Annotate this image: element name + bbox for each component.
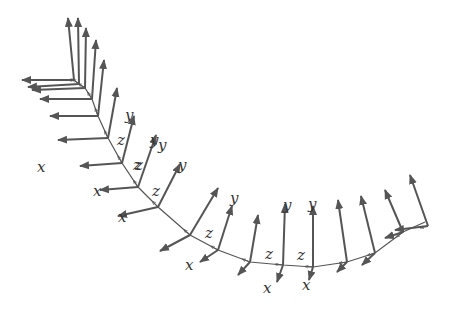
z-axis-arrow — [184, 230, 190, 235]
y-axis-arrow — [410, 175, 428, 226]
axis-label-z: z — [151, 182, 160, 200]
z-axis-arrow — [134, 180, 138, 187]
y-axis-arrow — [92, 40, 96, 99]
x-axis-arrow — [160, 235, 190, 251]
y-axis-arrow — [78, 18, 79, 84]
coordinate-frames — [22, 18, 428, 282]
coordinate-frame — [385, 190, 403, 238]
axis-label-y: y — [229, 189, 239, 207]
y-axis-arrow — [98, 60, 104, 116]
axis-label-x: x — [93, 182, 102, 200]
z-axis-arrow — [152, 201, 158, 207]
axis-label-x: x — [118, 208, 127, 226]
z-axis-arrow — [118, 156, 122, 163]
z-axis-arrow — [211, 246, 218, 250]
axis-label-x: x — [37, 158, 46, 176]
x-axis-arrow — [80, 163, 122, 166]
axis-label-z: z — [264, 245, 273, 263]
coordinate-frame — [395, 175, 428, 230]
coordinate-frame — [238, 215, 258, 275]
x-axis-arrow — [385, 232, 403, 238]
y-axis-arrow — [338, 200, 347, 262]
axis-label-y: y — [177, 156, 187, 174]
coordinate-frame — [22, 18, 74, 80]
frame-diagram: yyzzxyzxyzxyzxyzxyzx — [0, 0, 455, 320]
axis-label-x: x — [302, 276, 311, 294]
coordinate-frame — [58, 88, 117, 140]
y-axis-arrow — [68, 18, 74, 80]
axis-label-z: z — [296, 246, 305, 264]
z-axis-arrow — [305, 266, 313, 267]
y-axis-arrow — [190, 188, 218, 235]
y-axis-arrow — [250, 215, 258, 262]
axis-label-y: y — [282, 196, 292, 214]
x-axis-arrow — [32, 88, 85, 90]
y-axis-arrow — [385, 190, 403, 232]
frames-canvas: yyzzxyzxyzxyzxyzxyzx — [0, 0, 455, 320]
x-axis-arrow — [277, 265, 283, 282]
axis-labels: yyzzxyzxyzxyzxyzxyzx — [37, 106, 317, 297]
z-axis-arrow — [243, 259, 250, 262]
y-axis-arrow — [108, 88, 117, 138]
axis-label-x: x — [263, 279, 272, 297]
y-axis-arrow — [218, 206, 232, 250]
x-axis-arrow — [100, 187, 138, 190]
axis-label-y: y — [307, 195, 317, 213]
x-axis-arrow — [28, 84, 79, 87]
coordinate-frame — [275, 204, 285, 282]
x-axis-arrow — [58, 138, 108, 140]
z-axis-arrow — [105, 131, 108, 138]
axis-label-z: z — [134, 156, 143, 174]
x-axis-arrow — [238, 262, 250, 275]
y-axis-arrow — [158, 164, 180, 207]
axis-label-y: y — [157, 136, 167, 154]
y-axis-arrow — [361, 196, 375, 253]
coordinate-frame — [305, 206, 313, 280]
coordinate-frame — [337, 200, 347, 272]
axis-label-z: z — [116, 131, 125, 149]
axis-label-x: x — [185, 256, 194, 274]
axis-label-z: z — [204, 224, 213, 242]
x-axis-arrow — [200, 250, 218, 262]
axis-label-y: y — [124, 106, 134, 124]
y-axis-arrow — [85, 28, 86, 88]
